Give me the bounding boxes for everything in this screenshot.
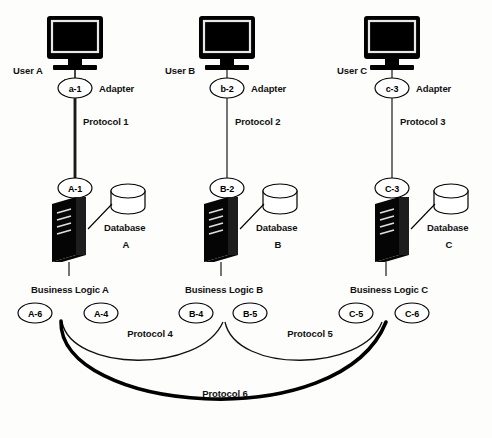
user-label-b: User B xyxy=(165,65,195,76)
user-label-c: User C xyxy=(337,65,367,76)
server-node-a-label: A-1 xyxy=(68,184,82,194)
database-icon-c xyxy=(434,184,468,214)
server-icon-c xyxy=(375,197,409,262)
logic-node-c-6-label: C-6 xyxy=(405,309,419,319)
database-icon-a xyxy=(111,184,145,214)
database-icon-b xyxy=(263,184,297,214)
protocol-label-1: Protocol 1 xyxy=(83,116,129,127)
figure-caption-partial xyxy=(34,428,314,437)
adapter-label-a: Adapter xyxy=(99,83,135,94)
column-a: User A a-1 Adapter Protocol 1 A-1 xyxy=(13,16,145,323)
diagram-canvas: User A a-1 Adapter Protocol 1 A-1 xyxy=(0,0,492,438)
logic-node-a-6-label: A-6 xyxy=(28,309,42,319)
server-icon-a xyxy=(52,197,86,262)
monitor-icon-a xyxy=(47,16,103,70)
server-node-b-label: B-2 xyxy=(220,184,234,194)
protocol-label-3: Protocol 3 xyxy=(400,116,445,127)
column-c: User C c-3 Adapter Protocol 3 C-3 xyxy=(337,16,468,323)
database-label-a: Database xyxy=(104,222,145,233)
database-label-c: Database xyxy=(427,222,468,233)
business-logic-label-a: Business Logic A xyxy=(31,284,109,295)
protocol-label-5: Protocol 5 xyxy=(287,328,333,339)
cross-protocol-curves: Protocol 4 Protocol 5 Protocol 6 xyxy=(61,321,386,399)
protocol-label-2: Protocol 2 xyxy=(235,116,280,127)
logic-node-b-4-label: B-4 xyxy=(189,309,203,319)
database-letter-a: A xyxy=(123,239,130,250)
server-icon-b xyxy=(204,197,238,262)
logic-node-a-4-label: A-4 xyxy=(94,309,108,319)
user-label-a: User A xyxy=(13,65,43,76)
business-logic-label-b: Business Logic B xyxy=(185,284,263,295)
server-node-c-label: C-3 xyxy=(385,184,399,194)
adapter-label-c: Adapter xyxy=(416,83,452,94)
database-label-b: Database xyxy=(256,222,297,233)
adapter-node-a-label: a-1 xyxy=(69,84,82,94)
adapter-node-c-label: c-3 xyxy=(386,84,399,94)
database-letter-c: C xyxy=(446,239,453,250)
database-letter-b: B xyxy=(275,239,282,250)
logic-node-b-5-label: B-5 xyxy=(243,309,257,319)
protocol-label-6: Protocol 6 xyxy=(202,388,247,399)
monitor-icon-b xyxy=(199,16,255,70)
architecture-diagram: User A a-1 Adapter Protocol 1 A-1 xyxy=(0,0,492,438)
adapter-label-b: Adapter xyxy=(251,83,287,94)
business-logic-label-c: Business Logic C xyxy=(350,284,428,295)
protocol-label-4: Protocol 4 xyxy=(127,328,173,339)
adapter-node-b-label: b-2 xyxy=(221,84,234,94)
monitor-icon-c xyxy=(364,16,420,70)
column-b: User B b-2 Adapter Protocol 2 B-2 xyxy=(165,16,297,323)
logic-node-c-5-label: C-5 xyxy=(349,309,363,319)
